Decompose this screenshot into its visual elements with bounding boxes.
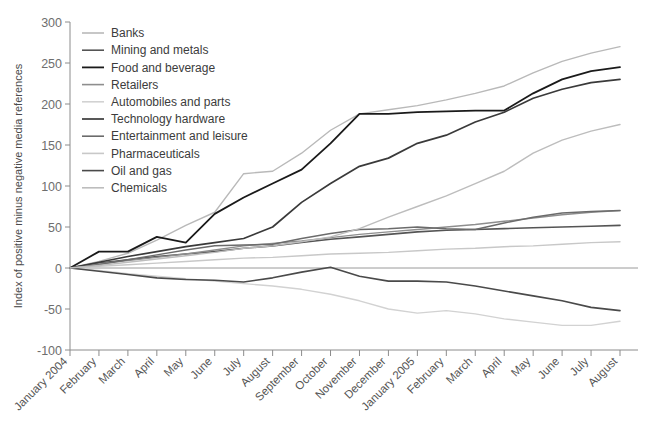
y-axis-tick-label: 200 (41, 98, 62, 112)
legend-label: Pharmaceuticals (111, 147, 200, 161)
x-axis-tick-label: April (479, 355, 504, 380)
x-axis: January 2004FebruaryMarchAprilMayJuneJul… (12, 350, 638, 413)
legend: BanksMining and metalsFood and beverageR… (82, 26, 248, 195)
legend-label: Oil and gas (111, 164, 172, 178)
y-axis-tick-label: -50 (44, 303, 62, 317)
y-axis-tick-label: 150 (41, 139, 62, 153)
y-axis: -100-50050100150200250300 (37, 16, 70, 358)
x-axis-tick-label: March (444, 355, 475, 386)
x-axis-tick-label: March (96, 355, 127, 386)
legend-label: Mining and metals (111, 43, 208, 57)
x-axis-tick-label: August (586, 354, 620, 388)
y-axis-tick-label: 0 (55, 262, 62, 276)
chart-container: -100-50050100150200250300Index of positi… (0, 0, 648, 440)
y-axis-tick-label: 300 (41, 16, 62, 30)
y-axis-tick-label: -100 (37, 344, 62, 358)
legend-label: Retailers (111, 78, 158, 92)
legend-label: Technology hardware (111, 112, 225, 126)
legend-label: Banks (111, 26, 144, 40)
x-axis-tick-label: June (188, 355, 214, 381)
legend-label: Entertainment and leisure (111, 129, 248, 143)
media-references-line-chart: -100-50050100150200250300Index of positi… (0, 0, 648, 440)
x-axis-tick-label: July (220, 355, 243, 378)
x-axis-tick-label: May (161, 355, 185, 379)
y-axis-tick-label: 100 (41, 180, 62, 194)
y-axis-tick-label: 250 (41, 57, 62, 71)
x-axis-tick-label: July (568, 355, 591, 378)
legend-label: Automobiles and parts (111, 95, 230, 109)
legend-label: Chemicals (111, 181, 167, 195)
x-axis-tick-label: June (535, 355, 561, 381)
y-axis-tick-label: 50 (48, 221, 62, 235)
series-line (70, 267, 620, 310)
y-axis-title: Index of positive minus negative media r… (12, 63, 24, 308)
x-axis-tick-label: April (131, 355, 156, 380)
x-axis-tick-label: May (509, 355, 533, 379)
legend-label: Food and beverage (111, 61, 215, 75)
